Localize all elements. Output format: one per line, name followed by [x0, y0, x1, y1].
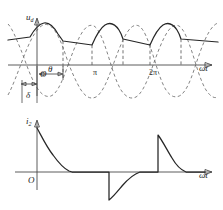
dashed-sine-wave-b [8, 24, 218, 98]
i2-current-waveform [37, 128, 205, 200]
delta-label: δ [26, 90, 31, 100]
top-xtick-pi: π [93, 68, 97, 77]
top-plot-group: ud O θ δ π 2π ωt [8, 12, 218, 103]
ud-output-waveform [8, 23, 218, 45]
bottom-origin-label: O [28, 175, 35, 185]
top-y-axis-label: ud [26, 12, 35, 23]
top-x-axis-label: ωt [199, 63, 208, 73]
rectifier-waveform-figure: ud O θ δ π 2π ωt i2 O ωt [0, 0, 223, 210]
theta-label: θ [48, 64, 53, 74]
waveform-diagram-svg: ud O θ δ π 2π ωt i2 O ωt [0, 0, 223, 210]
top-xtick-2pi: 2π [149, 68, 157, 77]
dashed-sine-wave-a [8, 23, 218, 98]
top-origin-label: O [40, 69, 47, 79]
bottom-plot-group: i2 O ωt [15, 116, 212, 200]
bottom-y-axis-label: i2 [26, 116, 32, 127]
bottom-x-axis-label: ωt [199, 170, 208, 180]
